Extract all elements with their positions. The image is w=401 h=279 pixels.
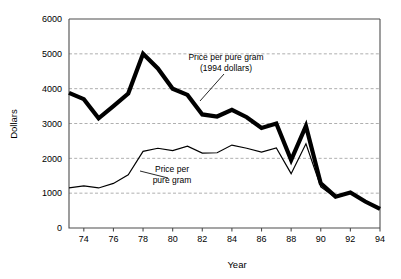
y-axis-title: Dollars [8,109,19,139]
y-tick-label-4000: 4000 [42,84,62,94]
annotation-real-dollars-line-1: (1994 dollars) [200,63,252,73]
x-tick-label-86: 86 [257,234,267,244]
x-tick-label-80: 80 [168,234,178,244]
y-tick-label-6000: 6000 [42,14,62,24]
x-tick-label-74: 74 [79,234,89,244]
line-chart: 0100020003000400050006000 74767880828486… [0,0,401,279]
x-tick-label-90: 90 [316,234,326,244]
annotation-real-dollars-line-0: Price per pure gram [188,52,263,62]
x-tick-label-76: 76 [108,234,118,244]
x-tick-label-78: 78 [138,234,148,244]
x-tick-label-88: 88 [286,234,296,244]
x-tick-label-94: 94 [375,234,385,244]
x-tick-label-84: 84 [227,234,237,244]
x-tick-label-82: 82 [197,234,207,244]
y-tick-label-5000: 5000 [42,49,62,59]
y-tick-label-1000: 1000 [42,188,62,198]
y-tick-label-2000: 2000 [42,154,62,164]
y-tick-label-3000: 3000 [42,119,62,129]
annotation-nominal-line-1: pure gram [153,175,192,185]
y-tick-label-0: 0 [57,223,62,233]
x-tick-label-92: 92 [345,234,355,244]
chart-page: 0100020003000400050006000 74767880828486… [0,0,401,279]
annotation-nominal-line-0: Price per [155,164,189,174]
x-axis-title: Year [227,259,246,270]
